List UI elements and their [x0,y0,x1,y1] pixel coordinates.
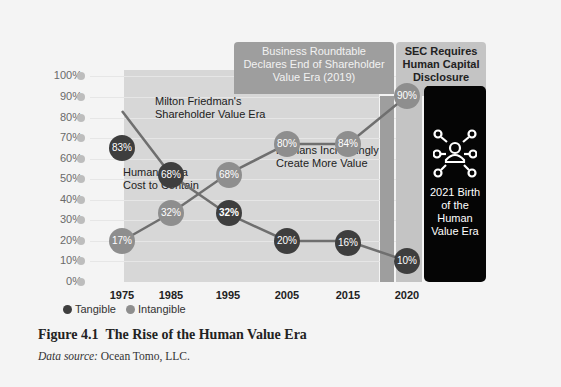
tangible-swatch-icon [63,305,72,314]
intangible-point: 17% [109,228,135,254]
x-tick: 1985 [151,289,191,301]
tangible-point: 20% [274,228,300,254]
intangible-swatch-icon [126,305,135,314]
x-tick: 2005 [267,289,307,301]
tangible-point: 68% [158,162,184,188]
tangible-point: 10% [394,248,420,274]
intangible-point: 32% [158,200,184,226]
figure-caption: Figure 4.1 The Rise of the Human Value E… [38,327,307,343]
intangible-point: 90% [394,83,420,109]
intangible-point: 68% [216,162,242,188]
legend-item-tangible: Tangible [63,303,116,315]
source-text: Ocean Tomo, LLC. [101,350,190,362]
tangible-point: 16% [335,230,361,256]
figure-title: The Rise of the Human Value Era [105,327,306,342]
data-source: Data source: Ocean Tomo, LLC. [38,350,190,362]
tangible-point: 32% [216,200,242,226]
figure-label: Figure 4.1 [38,327,98,342]
legend-label: Tangible [75,303,116,315]
tangible-point: 83% [109,135,135,161]
intangible-point: 84% [335,131,361,157]
x-tick: 1995 [208,289,248,301]
legend-label: Intangible [138,303,186,315]
x-tick: 2015 [328,289,368,301]
x-tick: 1975 [102,289,142,301]
intangible-point: 80% [274,131,300,157]
source-prefix: Data source: [38,350,98,362]
legend-item-intangible: Intangible [126,303,186,315]
x-tick: 2020 [387,289,427,301]
legend: Tangible Intangible [63,303,186,315]
